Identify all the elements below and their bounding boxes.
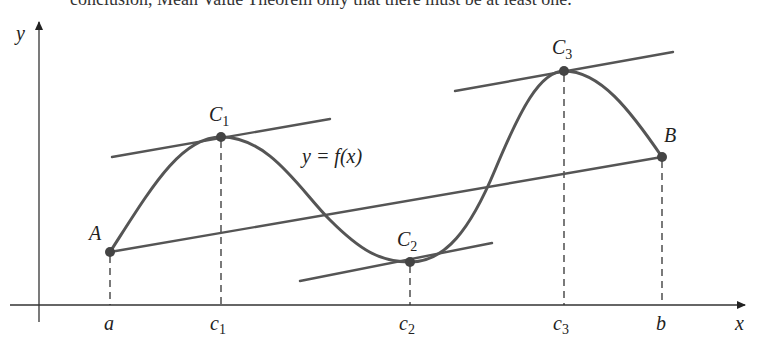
tick-c3: c3 — [553, 312, 569, 337]
label-c1: C1 — [209, 103, 229, 129]
point-c2 — [405, 257, 415, 267]
tick-b: b — [656, 312, 666, 334]
point-a — [105, 247, 115, 257]
function-curve — [110, 71, 662, 262]
label-c3: C3 — [552, 36, 572, 62]
label-c2: C2 — [397, 228, 417, 254]
point-c1 — [216, 132, 226, 142]
tick-c2: c2 — [399, 312, 415, 337]
point-b — [657, 152, 667, 162]
x-axis-label: x — [734, 312, 744, 334]
secant-line-ab — [110, 157, 662, 252]
mean-value-theorem-diagram: A C1 C2 C3 B y = f(x) y x a c1 c2 c3 b — [0, 0, 765, 337]
tick-a: a — [104, 312, 114, 334]
function-label: y = f(x) — [300, 145, 362, 168]
label-a: A — [87, 222, 102, 244]
point-c3 — [559, 66, 569, 76]
label-b: B — [664, 124, 676, 146]
tick-c1: c1 — [210, 312, 226, 337]
y-axis-label: y — [14, 22, 25, 45]
